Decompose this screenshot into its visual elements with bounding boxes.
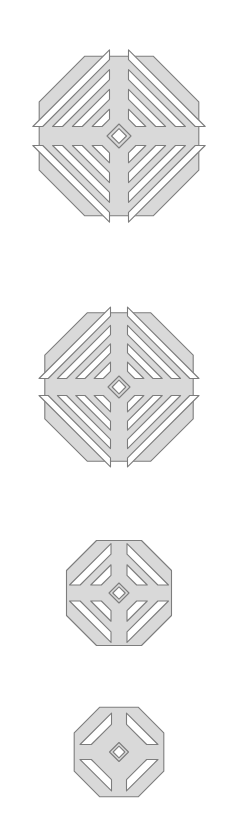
figure-stack [0,0,238,820]
grille-plate-1 [1,18,237,254]
grille-plate-2 [9,277,229,497]
grille-plate-3 [40,514,198,672]
grille-plate-4 [51,684,187,820]
